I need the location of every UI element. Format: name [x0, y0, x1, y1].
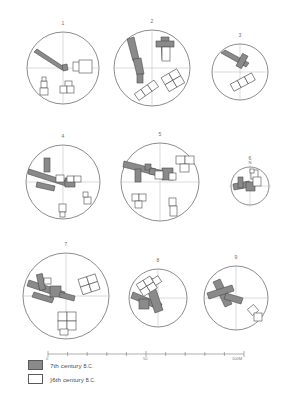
- site-plan-panel-9: 9: [201, 263, 271, 333]
- site-plan-panel-5: 5: [118, 140, 202, 224]
- structures-7th-century: [221, 50, 249, 69]
- legend-label-7th-century: 7th century B.C.: [50, 362, 93, 369]
- panel-8-plan: [126, 266, 190, 330]
- panel-9-plan: [201, 263, 271, 333]
- structures-6th-century: [56, 175, 91, 217]
- panel-4-plan: [23, 142, 103, 222]
- structures-6th-century: [44, 274, 100, 335]
- legend-label-6th-century-era: B.C.: [86, 378, 96, 383]
- site-plan-panel-3: 3: [209, 41, 271, 103]
- structures-6th-century: [136, 272, 163, 296]
- north-indicator-label: N: [243, 160, 257, 165]
- panel-3-plan: [209, 41, 271, 103]
- legend-label-6th-century-text: }6th century: [50, 376, 86, 383]
- structures-6th-century: [247, 304, 262, 321]
- figure-canvas: 1 2: [0, 0, 293, 408]
- panel-number-8: 8: [151, 257, 165, 263]
- panel-number-2: 2: [145, 18, 159, 24]
- panel-1-plan: [24, 29, 102, 107]
- panel-7-plan: [20, 250, 112, 342]
- site-plan-panel-6: 6 N: [228, 164, 272, 208]
- structures-7th-century: [28, 158, 75, 191]
- legend-label-7th-century-text: 7th century: [50, 362, 84, 369]
- panel-5-plan: [118, 140, 202, 224]
- legend-swatch-6th-century: [28, 374, 43, 384]
- legend: 7th century B.C. }6th century B.C.: [28, 358, 208, 386]
- structures-7th-century: [207, 279, 243, 307]
- panel-number-3: 3: [233, 32, 247, 38]
- structures-7th-century: [123, 161, 173, 182]
- structures-6th-century: [230, 73, 255, 91]
- panel-2-plan: [111, 27, 193, 109]
- legend-item-7th-century: 7th century B.C.: [28, 358, 208, 372]
- legend-label-6th-century: }6th century B.C.: [50, 376, 95, 383]
- site-plan-panel-1: 1: [24, 29, 102, 107]
- panel-6-plan: [228, 164, 272, 208]
- panel-number-7: 7: [59, 241, 73, 247]
- legend-item-6th-century: }6th century B.C.: [28, 372, 208, 386]
- structures-6th-century: [132, 156, 194, 216]
- legend-swatch-7th-century: [28, 360, 43, 370]
- panel-number-1: 1: [56, 20, 70, 26]
- panel-number-4: 4: [56, 133, 70, 139]
- legend-label-7th-century-era: B.C.: [84, 364, 94, 369]
- panel-number-9: 9: [229, 254, 243, 260]
- scale-tick-100: 100M: [232, 356, 242, 361]
- panel-number-5: 5: [153, 131, 167, 137]
- site-plan-panel-7: 7: [20, 250, 112, 342]
- site-plan-panel-4: 4: [23, 142, 103, 222]
- site-plan-panel-2: 2: [111, 27, 193, 109]
- site-plan-panel-8: 8: [126, 266, 190, 330]
